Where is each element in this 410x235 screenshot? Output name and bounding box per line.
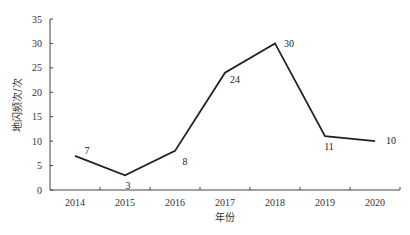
y-tick-label: 20 bbox=[32, 87, 42, 98]
x-tick-label: 2017 bbox=[215, 197, 235, 208]
data-label: 3 bbox=[126, 180, 131, 191]
x-tick-label: 2018 bbox=[265, 197, 285, 208]
y-axis: 05101520253035 bbox=[32, 14, 53, 196]
y-tick-label: 0 bbox=[37, 185, 42, 196]
y-axis-title: 地闪频次/次 bbox=[11, 78, 23, 131]
y-tick-label: 25 bbox=[32, 62, 42, 73]
line-chart: 05101520253035 2014201520162017201820192… bbox=[0, 0, 410, 235]
y-tick-label: 15 bbox=[32, 111, 42, 122]
x-tick-label: 2019 bbox=[315, 197, 335, 208]
x-axis-title: 年份 bbox=[215, 211, 235, 223]
data-label: 8 bbox=[183, 156, 188, 167]
x-tick-label: 2020 bbox=[365, 197, 385, 208]
x-tick-label: 2015 bbox=[115, 197, 135, 208]
y-tick-label: 35 bbox=[32, 14, 42, 25]
data-label: 10 bbox=[386, 135, 396, 146]
x-tick-label: 2016 bbox=[165, 197, 185, 208]
y-tick-label: 30 bbox=[32, 38, 42, 49]
data-label: 30 bbox=[284, 38, 294, 49]
data-labels: 73824301110 bbox=[85, 38, 397, 191]
y-tick-label: 5 bbox=[37, 160, 42, 171]
x-tick-label: 2014 bbox=[65, 197, 85, 208]
data-label: 11 bbox=[324, 141, 334, 152]
y-tick-label: 10 bbox=[32, 136, 42, 147]
series-line bbox=[75, 43, 375, 175]
x-axis: 2014201520162017201820192020 bbox=[50, 187, 400, 208]
data-label: 24 bbox=[230, 74, 240, 85]
data-label: 7 bbox=[85, 145, 90, 156]
